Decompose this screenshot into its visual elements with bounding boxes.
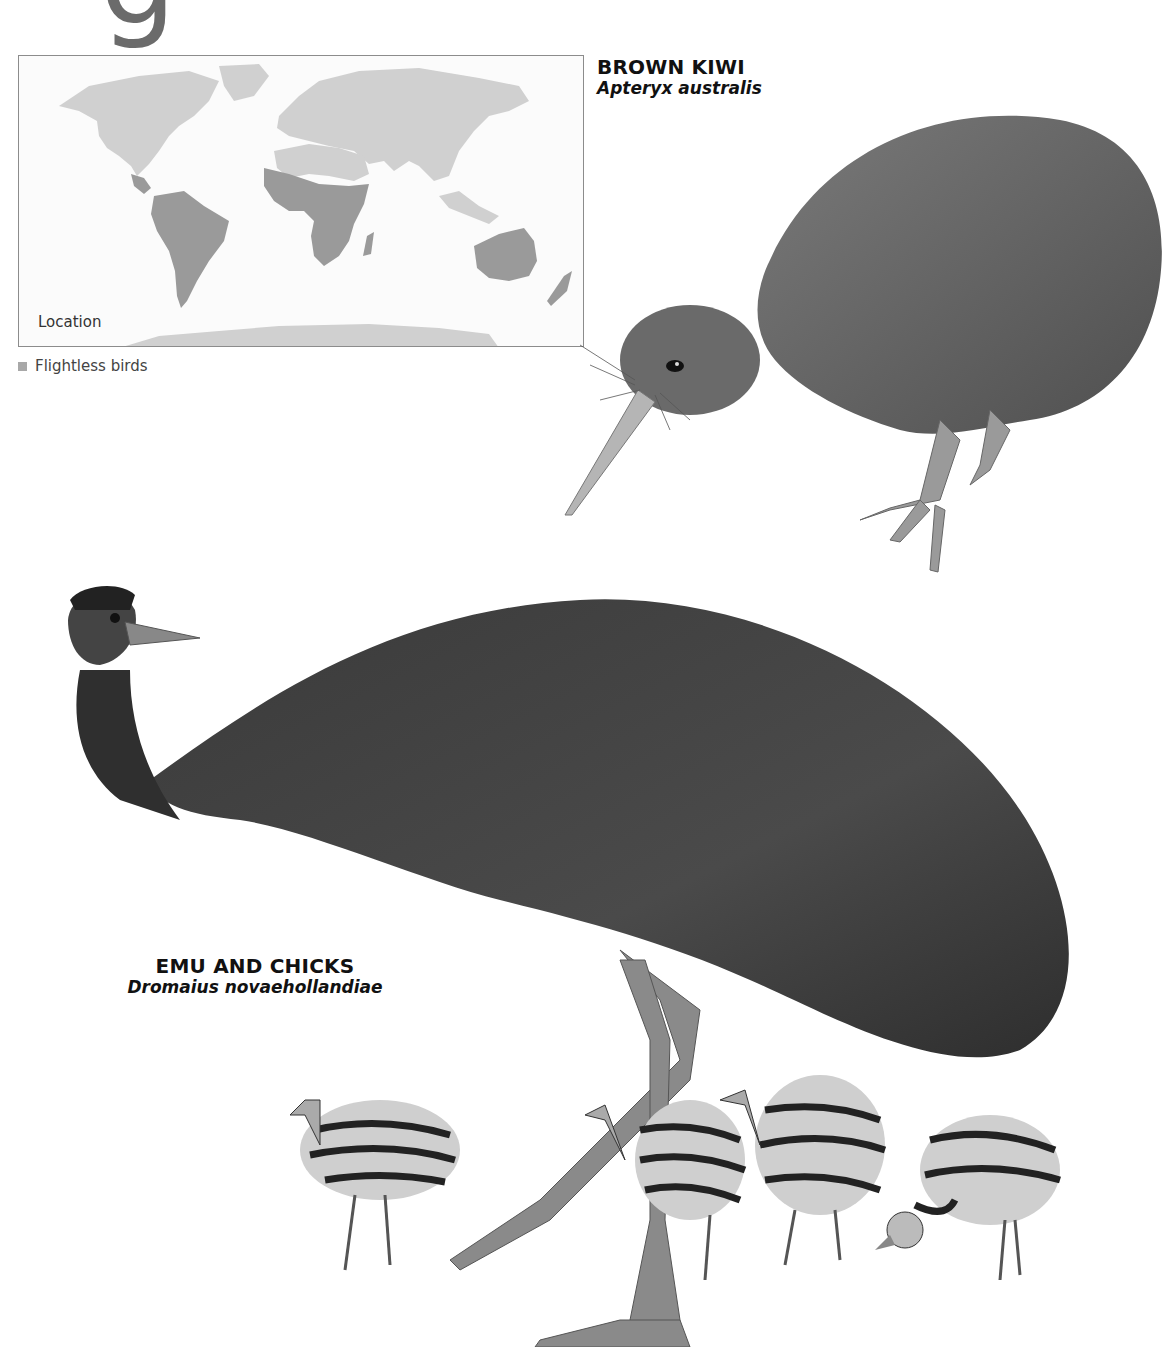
kiwi-latin-name: Apteryx australis — [597, 79, 762, 99]
map-label: Location — [38, 313, 101, 331]
kiwi-caption: BROWN KIWI Apteryx australis — [597, 56, 762, 99]
kiwi-common-name: BROWN KIWI — [597, 56, 762, 79]
brown-kiwi-illustration — [560, 110, 1166, 590]
page-heading-fragment: g — [100, 0, 174, 42]
world-map-graphic — [19, 56, 584, 347]
location-map: Location — [18, 55, 584, 347]
emu-chicks-group — [290, 1075, 1060, 1280]
emu-and-chicks-illustration — [60, 580, 1110, 1347]
legend-swatch-icon — [18, 362, 27, 371]
map-legend: Flightless birds — [18, 357, 148, 375]
legend-label: Flightless birds — [35, 357, 148, 375]
